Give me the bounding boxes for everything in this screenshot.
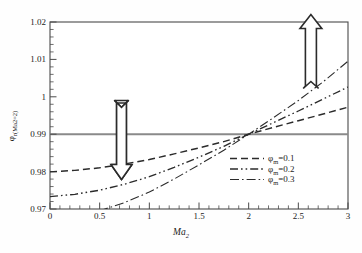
x-axis-title-subscript: 2 [186,232,189,239]
legend-phim-0-1-value: =0.1 [278,153,294,163]
legend-label-phim-0-3: φm=0.3 [268,175,295,186]
x-tick-label-4: 2 [246,212,251,221]
chart-figure: 0 0.5 1 1.5 2 2.5 3 0.97 0.98 0.99 1 1.0… [0,0,362,253]
x-tick-label-0: 0 [48,212,53,221]
y-tick-label-1: 0.98 [20,167,46,176]
y-axis-title-base: φ [6,136,16,141]
legend-phim-0-2-value: =0.2 [278,164,294,174]
y-tick-label-0: 0.97 [20,205,46,214]
y-axis-title-subscript: r(Ma2=2) [11,111,18,136]
x-tick-label-3: 1.5 [193,212,204,221]
plot-canvas [0,0,362,253]
x-tick-label-1: 0.5 [94,212,105,221]
y-tick-label-5: 1.02 [20,18,46,27]
x-tick-label-6: 3 [346,212,351,221]
y-axis-title: φr(Ma2=2) [7,111,18,142]
x-axis-title: Ma2 [173,228,189,239]
legend-phim-0-3-value: =0.3 [278,174,294,184]
plot-frame [50,22,348,209]
y-tick-label-4: 1.01 [20,55,46,64]
x-tick-label-2: 1 [147,212,152,221]
y-tick-label-3: 1 [20,92,46,101]
y-tick-label-2: 0.99 [20,130,46,139]
x-axis-title-base: Ma [173,227,186,237]
x-tick-label-5: 2.5 [293,212,304,221]
